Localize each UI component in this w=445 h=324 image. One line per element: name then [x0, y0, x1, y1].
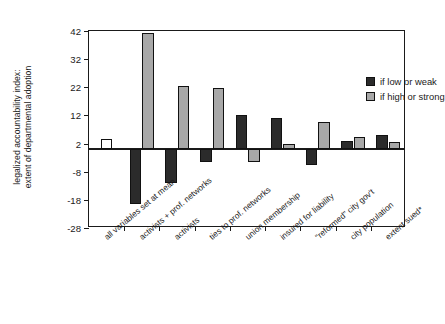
bar-high-or-strong [178, 86, 190, 149]
y-axis-tick-label: 22 [70, 82, 81, 93]
legend-item: if high or strong [366, 90, 445, 104]
y-axis-tick-label: -18 [67, 194, 81, 205]
legend-swatch-gray [366, 92, 375, 101]
y-axis-tick-label: 32 [70, 54, 81, 65]
y-axis-tick [84, 115, 89, 116]
y-axis-tick-label: -28 [67, 223, 81, 234]
bar-low-or-weak [236, 115, 248, 149]
bar-low-or-weak [376, 135, 388, 149]
bar-high-or-strong [318, 122, 330, 149]
bar-high-or-strong [354, 137, 366, 150]
bar-high-or-strong [248, 149, 260, 162]
bar-low-or-weak [306, 149, 318, 164]
bar-low-or-weak [130, 149, 142, 204]
legend-item: if low or weak [366, 75, 445, 89]
bar-low-or-weak [200, 149, 212, 162]
y-axis-tick [84, 59, 89, 60]
y-axis-tick-label: 2 [76, 138, 81, 149]
y-axis-tick [84, 31, 89, 32]
bar-high-or-strong [389, 142, 401, 149]
y-axis-tick [84, 200, 89, 201]
y-axis-title-line-2: extent of departmental adoption [22, 66, 33, 188]
y-axis-tick-label: 12 [70, 110, 81, 121]
y-axis-tick [84, 144, 89, 145]
bar-low-or-weak [271, 118, 283, 149]
legend-label: if high or strong [380, 90, 445, 104]
bar-high-or-strong [142, 33, 154, 149]
bar-high-or-strong [213, 88, 225, 149]
y-axis-tick [84, 228, 89, 229]
legend-swatch-dark [366, 77, 375, 86]
y-axis-title: legalized accountability index: extent o… [2, 24, 42, 230]
y-axis-tick-label: -8 [72, 166, 81, 177]
legend-label: if low or weak [380, 75, 437, 89]
y-axis-title-line-1: legalized accountability index: [12, 69, 22, 184]
chart-legend: if low or weakif high or strong [366, 75, 445, 104]
y-axis-tick [84, 172, 89, 173]
bar-baseline [101, 139, 113, 149]
bar-low-or-weak [341, 141, 353, 149]
y-axis-tick-label: 42 [70, 26, 81, 37]
bar-high-or-strong [283, 144, 295, 150]
y-axis-tick [84, 87, 89, 88]
